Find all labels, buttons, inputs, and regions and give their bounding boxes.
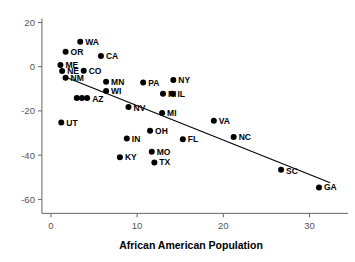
- data-points: [57, 39, 322, 191]
- x-axis-title: African American Population: [119, 239, 263, 251]
- data-point: [63, 49, 69, 55]
- x-axis-title-text: African American Population: [119, 239, 263, 251]
- data-point: [84, 95, 90, 101]
- data-point-label: UT: [66, 118, 78, 128]
- axes: [42, 18, 348, 213]
- data-point-label: CO: [89, 66, 102, 76]
- data-point-label: NM: [71, 73, 84, 83]
- data-point: [170, 77, 176, 83]
- data-point-label: FL: [188, 134, 198, 144]
- data-point-label: NV: [134, 103, 146, 113]
- data-point-label: IN: [132, 134, 141, 144]
- x-tick-label: 30: [304, 220, 315, 231]
- data-point-label: NY: [178, 75, 190, 85]
- data-point: [57, 62, 63, 68]
- data-point: [159, 110, 165, 116]
- y-tick-label: 0: [30, 61, 35, 72]
- data-point-label: MI: [167, 108, 176, 118]
- data-point: [77, 39, 83, 45]
- data-point-label: OH: [155, 126, 168, 136]
- data-point: [149, 149, 155, 155]
- y-tick-label: 20: [24, 17, 35, 28]
- data-point-label: TX: [159, 157, 170, 167]
- data-point: [316, 184, 322, 190]
- scatter-chart: 200-20-40-600102030 WAORCAMENECONMMNPANY…: [0, 0, 355, 262]
- data-point-label: KY: [125, 152, 137, 162]
- data-point-label: RI: [168, 89, 177, 99]
- data-point: [74, 95, 80, 101]
- data-point-label: PA: [148, 78, 159, 88]
- data-point: [117, 154, 123, 160]
- y-tick-label: -20: [21, 105, 35, 116]
- data-point-label: GA: [324, 182, 337, 192]
- data-point-label: WI: [111, 86, 121, 96]
- plot-area: 200-20-40-600102030 WAORCAMENECONMMNPANY…: [0, 0, 355, 262]
- data-point-label: IL: [177, 89, 185, 99]
- x-tick-label: 20: [218, 220, 229, 231]
- data-point: [180, 136, 186, 142]
- data-point-label: WA: [85, 37, 99, 47]
- data-point: [103, 79, 109, 85]
- data-point: [147, 128, 153, 134]
- y-tick-label: -40: [21, 150, 35, 161]
- data-point: [103, 88, 109, 94]
- data-point-label: VA: [219, 116, 230, 126]
- data-point-label: CA: [106, 51, 118, 61]
- data-point-label: AZ: [92, 94, 103, 104]
- data-point: [278, 167, 284, 173]
- data-point-label: OR: [71, 47, 84, 57]
- y-tick-label: -60: [21, 194, 35, 205]
- data-point-label: MO: [157, 147, 171, 157]
- data-point: [79, 95, 85, 101]
- data-point-labels: WAORCAMENECONMMNPANYWIRIILAZNVMIVAUTOHIN…: [65, 37, 336, 193]
- data-point-label: SC: [286, 166, 298, 176]
- data-point-label: NC: [239, 132, 251, 142]
- data-point: [140, 80, 146, 86]
- data-point: [124, 136, 130, 142]
- data-point: [59, 68, 65, 74]
- x-tick-label: 10: [132, 220, 143, 231]
- data-point: [151, 159, 157, 165]
- data-point: [211, 118, 217, 124]
- data-point: [126, 104, 132, 110]
- x-tick-label: 0: [48, 220, 53, 231]
- data-point: [58, 120, 64, 126]
- data-point: [98, 53, 104, 59]
- data-point: [231, 134, 237, 140]
- data-point: [160, 91, 166, 97]
